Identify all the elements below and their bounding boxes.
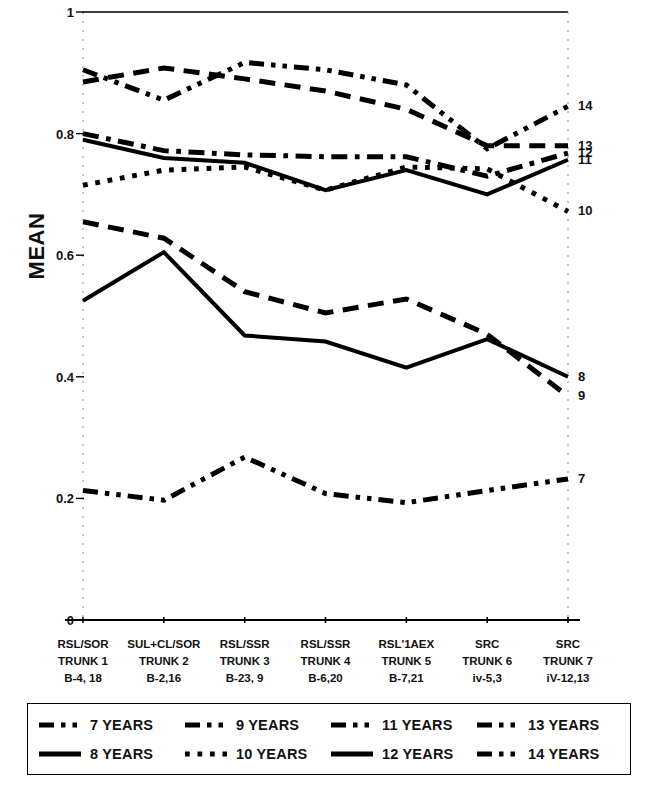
legend-item-11-years[interactable]: 11 YEARS [330,710,476,739]
series-end-label-9: 9 [578,389,608,402]
legend-item-9-years[interactable]: 9 YEARS [184,710,330,739]
y-tick-label: 0 [20,614,74,627]
legend-label: 11 YEARS [382,717,453,733]
y-tick-label: 1 [20,6,74,19]
series-end-label-13: 13 [578,139,608,152]
series-line-9-years [83,222,568,396]
legend-item-13-years[interactable]: 13 YEARS [476,710,622,739]
legend-label: 8 YEARS [90,746,153,762]
legend-label: 7 YEARS [90,717,153,733]
x-category-line: iV-12,13 [513,670,623,687]
series-line-7-years [83,457,568,503]
y-tick-label: 0.2 [20,492,74,505]
axis-layer [65,12,580,623]
series-line-14-years [83,62,568,148]
legend-line-swatch-icon [330,718,374,732]
x-category-line: TRUNK 7 [513,653,623,670]
x-axis-category-labels: RSL/SORTRUNK 1B-4, 18SUL+CL/SORTRUNK 2B-… [0,636,657,696]
legend-item-10-years[interactable]: 10 YEARS [184,739,330,768]
legend-item-12-years[interactable]: 12 YEARS [330,739,476,768]
chart-screenshot: 00.20.40.60.81 MEAN 7891011121314 RSL/SO… [0,0,657,804]
legend-label: 12 YEARS [382,746,453,762]
legend-label: 10 YEARS [236,746,307,762]
y-axis-tick-labels: 00.20.40.60.81 [0,0,74,640]
legend-label: 9 YEARS [236,717,299,733]
legend-line-swatch-icon [38,747,82,761]
legend-line-swatch-icon [476,747,520,761]
chart-legend: 7 YEARS9 YEARS11 YEARS13 YEARS8 YEARS10 … [27,703,631,775]
series-layer [83,62,568,502]
legend-label: 13 YEARS [528,717,599,733]
series-end-label-8: 8 [578,370,608,383]
line-chart: 00.20.40.60.81 MEAN 7891011121314 RSL/SO… [0,0,657,700]
legend-label: 14 YEARS [528,746,599,762]
legend-item-8-years[interactable]: 8 YEARS [38,739,184,768]
legend-line-swatch-icon [184,718,228,732]
legend-line-swatch-icon [476,718,520,732]
legend-item-14-years[interactable]: 14 YEARS [476,739,622,768]
series-end-label-14: 14 [578,99,608,112]
series-line-13-years [83,68,568,146]
y-axis-title: MEAN [22,186,52,306]
legend-row: 7 YEARS9 YEARS11 YEARS13 YEARS [38,710,622,739]
chart-canvas [0,0,657,700]
series-end-label-10: 10 [578,204,608,217]
x-category-label: SRCTRUNK 7iV-12,13 [513,636,623,687]
legend-line-swatch-icon [38,718,82,732]
x-category-line: SRC [513,636,623,653]
y-tick-label: 0.4 [20,371,74,384]
series-end-label-7: 7 [578,472,608,485]
legend-line-swatch-icon [330,747,374,761]
legend-line-swatch-icon [184,747,228,761]
y-tick-label: 0.8 [20,128,74,141]
legend-row: 8 YEARS10 YEARS12 YEARS14 YEARS [38,739,622,768]
legend-item-7-years[interactable]: 7 YEARS [38,710,184,739]
